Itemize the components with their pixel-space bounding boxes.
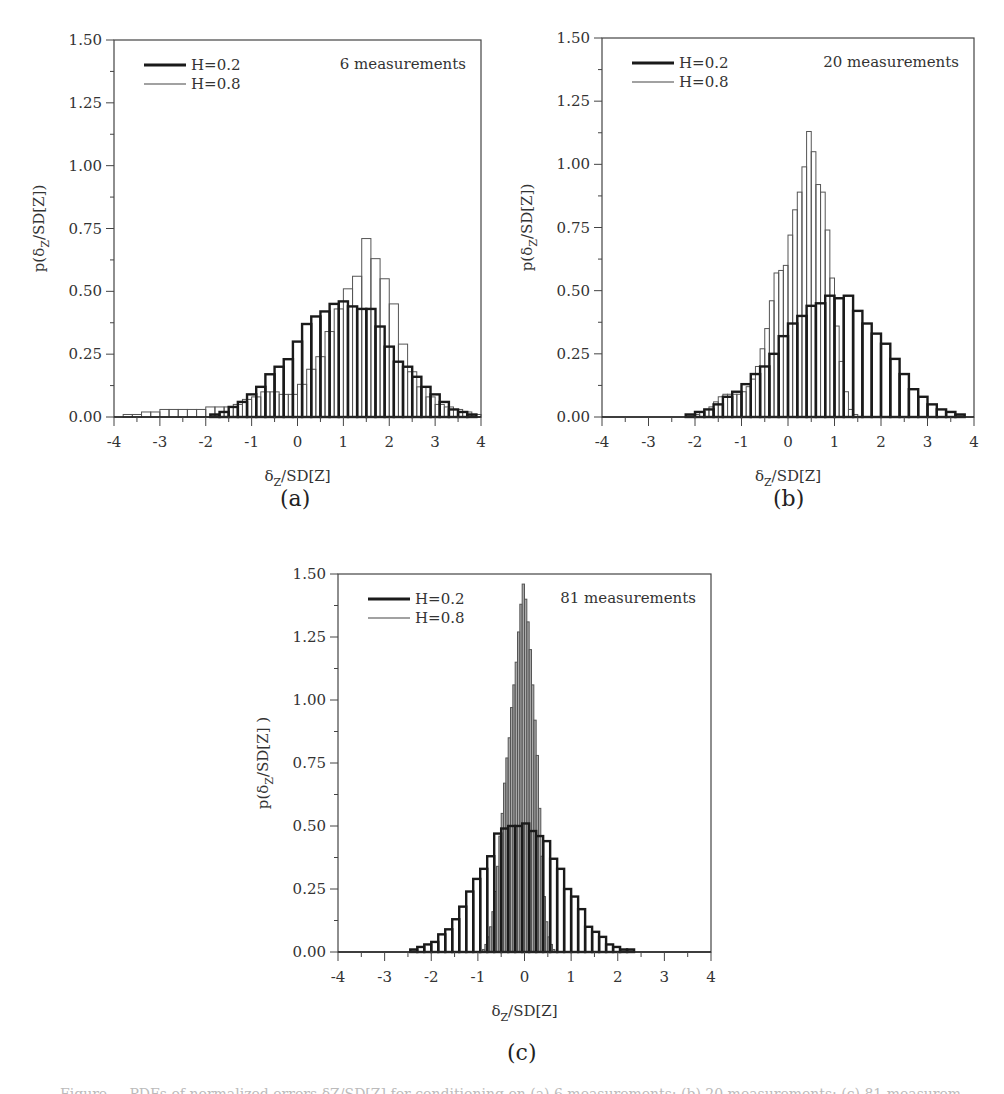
- x-tick-label: 3: [660, 968, 670, 986]
- x-tick-label: 1: [566, 968, 576, 986]
- x-tick-label: 0: [520, 968, 530, 986]
- x-tick-label: -2: [424, 968, 439, 986]
- x-tick-label: -3: [377, 968, 392, 986]
- x-axis-label: δZ/SD[Z]: [491, 1002, 557, 1024]
- y-axis-label: p(δZ/SD[Z] ): [254, 717, 276, 809]
- y-tick-label: 0.50: [293, 817, 326, 835]
- legend-label-h02: H=0.2: [415, 590, 465, 608]
- series-h-0-2: [410, 823, 634, 952]
- legend-label-h08: H=0.8: [415, 609, 465, 627]
- y-tick-label: 0.00: [293, 943, 326, 961]
- y-tick-label: 1.00: [293, 691, 326, 709]
- figure-caption: Figure ... PDFs of normalized errors δZ/…: [60, 1082, 960, 1094]
- x-tick-label: 2: [613, 968, 623, 986]
- x-tick-label: -4: [331, 968, 346, 986]
- y-tick-label: 0.75: [293, 754, 326, 772]
- y-tick-label: 1.50: [293, 565, 326, 583]
- x-tick-label: 4: [706, 968, 716, 986]
- y-tick-label: 0.25: [293, 880, 326, 898]
- x-tick-label: -1: [471, 968, 486, 986]
- subfigure-label-c: (c): [507, 1040, 537, 1065]
- y-tick-label: 1.25: [293, 628, 326, 646]
- measurements-annotation: 81 measurements: [560, 589, 696, 607]
